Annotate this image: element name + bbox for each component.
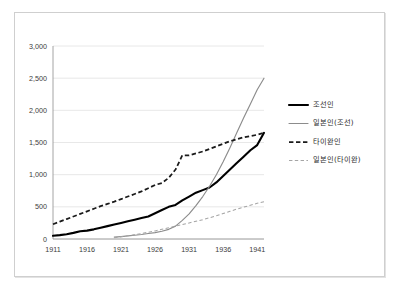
y-axis-tick-label: 2,500 [29, 74, 47, 83]
y-axis-tick-label: 0 [43, 235, 47, 244]
x-axis-tick-label: 1931 [181, 245, 197, 254]
legend-label-series-japanese-in-korea: 일본인(조선) [313, 118, 354, 127]
line-chart: 05001,0001,5002,0002,5003,000 1911191619… [15, 13, 386, 278]
chart-legend: 조선인일본인(조선)타이완인일본인(타이완) [289, 100, 361, 165]
legend-label-series-taiwanese: 타이완인 [313, 137, 341, 146]
chart-outer-frame: 05001,0001,5002,0002,5003,000 1911191619… [14, 12, 385, 277]
legend-label-series-japanese-in-taiwan: 일본인(타이완) [313, 155, 361, 164]
x-axis-tick-label: 1921 [113, 245, 129, 254]
x-axis-tick-label: 1916 [79, 245, 95, 254]
x-axis-tick-label: 1911 [45, 245, 60, 254]
y-axis-tick-label: 2,000 [29, 106, 47, 115]
x-axis-tick-label: 1941 [249, 245, 265, 254]
y-axis-tick-label: 1,000 [29, 170, 47, 179]
x-axis-tick-label: 1936 [215, 245, 231, 254]
y-axis-tick-labels: 05001,0001,5002,0002,5003,000 [29, 42, 47, 244]
data-series-layer [53, 78, 264, 238]
x-axis-tick-label: 1926 [147, 245, 163, 254]
legend-label-series-korean: 조선인 [313, 100, 334, 109]
series-taiwanese [53, 133, 264, 224]
y-axis-tick-label: 3,000 [29, 42, 47, 51]
y-axis-tick-label: 1,500 [29, 138, 47, 147]
y-axis-tick-label: 500 [35, 202, 47, 211]
chart-plot-container: 05001,0001,5002,0002,5003,000 1911191619… [15, 13, 386, 278]
x-axis-tick-labels: 1911191619211926193119361941 [45, 245, 265, 254]
